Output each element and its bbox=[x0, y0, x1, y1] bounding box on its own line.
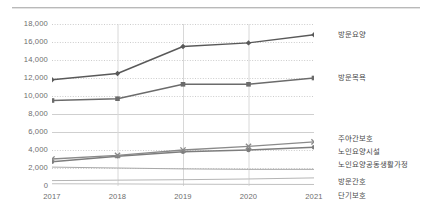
y-axis-tick-label: 6,000 bbox=[28, 128, 48, 136]
data-point-marker bbox=[311, 32, 314, 37]
series-label: 노인요양공동생활가정 bbox=[338, 161, 408, 169]
series-label: 방문목욕 bbox=[338, 74, 366, 82]
plot-area bbox=[52, 24, 314, 186]
x-axis-tick-label: 2017 bbox=[43, 193, 61, 201]
y-axis-tick-labels: 18,00016,00014,00012,00010,0008,0006,000… bbox=[0, 24, 48, 186]
series-label: 방문요양 bbox=[338, 31, 366, 39]
y-axis-tick-label: 12,000 bbox=[24, 74, 48, 82]
data-point-marker bbox=[246, 40, 251, 45]
series-line bbox=[52, 184, 314, 185]
data-point-marker bbox=[246, 82, 251, 87]
chart-svg bbox=[52, 24, 314, 186]
x-axis-tick-label: 2018 bbox=[109, 193, 127, 201]
y-axis-tick-label: 10,000 bbox=[24, 92, 48, 100]
data-point-marker bbox=[312, 145, 314, 149]
y-axis-tick-label: 2,000 bbox=[28, 164, 48, 172]
chart-root: 18,00016,00014,00012,00010,0008,0006,000… bbox=[0, 0, 431, 213]
series-label: 노인요양시설 bbox=[338, 148, 380, 156]
y-axis-tick-label: 0 bbox=[44, 182, 48, 190]
x-axis-tick-label: 2019 bbox=[174, 193, 192, 201]
data-point-marker bbox=[52, 77, 55, 82]
y-axis-tick-label: 16,000 bbox=[24, 38, 48, 46]
data-point-marker bbox=[115, 96, 120, 101]
data-point-marker bbox=[52, 98, 54, 103]
series-label: 방문간호 bbox=[338, 178, 366, 186]
x-axis-tick-label: 2020 bbox=[240, 193, 258, 201]
data-point-marker bbox=[181, 82, 186, 87]
y-axis-tick-label: 14,000 bbox=[24, 56, 48, 64]
data-point-marker bbox=[180, 44, 185, 49]
y-axis-tick-label: 8,000 bbox=[28, 110, 48, 118]
y-axis-tick-label: 4,000 bbox=[28, 146, 48, 154]
series-label: 주야간보호 bbox=[338, 135, 373, 143]
x-axis-tick-labels: 20172018201920202021 bbox=[52, 190, 314, 206]
series-legend: 방문요양방문목욕주야간보호노인요양시설노인요양공동생활가정방문간호단기보호 bbox=[316, 0, 431, 213]
series-label: 단기보호 bbox=[338, 193, 366, 201]
y-axis-tick-label: 18,000 bbox=[24, 20, 48, 28]
data-point-marker bbox=[115, 71, 120, 76]
data-point-marker bbox=[312, 76, 314, 81]
